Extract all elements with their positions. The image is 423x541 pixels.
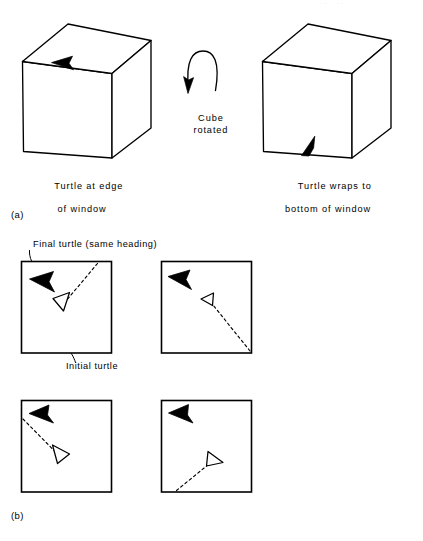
left-cube-caption: Turtle at edge of window [12,169,152,240]
cube-rotation-arrow [184,51,218,94]
right-cube-caption-line2: bottom of window [252,204,404,216]
cube-right-front-face [263,62,353,159]
rotation-label-line1: Cube [198,113,224,123]
page-bleed-artifact: ·· ·· [320,0,345,9]
part-a-label: (a) [11,209,24,221]
window-panel-2 [162,262,252,354]
window-panel-1 [22,262,112,354]
figure-root: ·· ·· Turtle at edge of window Cube rota… [0,0,423,541]
cube-left-front-face [23,62,113,159]
right-cube-caption: Turtle wraps to bottom of window [252,169,404,240]
left-cube-caption-line2: of window [12,204,152,216]
window-panel-3 [22,401,112,493]
window-panel-1-frame [22,262,112,354]
part-b-label: (b) [11,510,24,522]
right-cube-caption-line1: Turtle wraps to [298,181,372,191]
rotation-arc [188,51,217,91]
rotation-label: Cube rotated [170,101,238,148]
left-cube-caption-line1: Turtle at edge [54,181,123,191]
figure-canvas [0,0,423,541]
window-panel-4 [162,401,252,493]
cube-after-rotation [263,24,392,158]
rotation-arrowhead-icon [184,77,194,94]
cube-before-rotation [23,24,152,158]
final-turtle-annotation-label: Final turtle (same heading) [33,239,157,251]
initial-turtle-annotation-label: Initial turtle [66,361,118,373]
rotation-label-line2: rotated [193,125,228,135]
